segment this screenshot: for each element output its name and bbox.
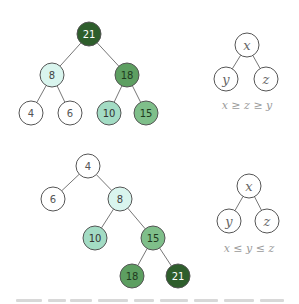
tree-node: z (254, 67, 278, 91)
node-label: z (262, 72, 270, 87)
tree-node: 18 (115, 63, 139, 87)
node-label: z (263, 214, 271, 229)
tree-node: y (217, 209, 241, 233)
tree-node: 8 (40, 63, 64, 87)
tree-node: y (214, 67, 238, 91)
node-label: y (224, 214, 233, 229)
heap-diagram: 21818461015 xyz x ≥ z ≥ y 46810151821 xy… (0, 0, 299, 304)
tree-edge (114, 86, 122, 102)
tree-edge (138, 249, 147, 266)
tree-node: 6 (58, 101, 82, 125)
tree-node: x (235, 33, 259, 57)
tree-edge (97, 43, 119, 66)
tree-node: z (255, 209, 279, 233)
node-label: 6 (50, 194, 56, 205)
node-label: 10 (103, 108, 116, 119)
tree-edge (160, 248, 172, 266)
tree-node: 4 (19, 101, 43, 125)
max-heap-template: xyz (214, 33, 278, 91)
min-heap-template: xyz (217, 174, 279, 233)
max-heap-caption: x ≥ z ≥ y (222, 99, 273, 112)
node-label: 8 (117, 194, 123, 205)
node-label: 15 (147, 233, 160, 244)
tree-node: 4 (76, 154, 100, 178)
node-label: y (221, 72, 230, 87)
tree-node: x (237, 174, 261, 198)
tree-node: 21 (77, 22, 101, 46)
node-label: 21 (83, 29, 96, 40)
tree-node: 6 (41, 187, 65, 211)
node-label: 6 (67, 108, 73, 119)
node-label: 15 (140, 108, 153, 119)
tree-edge (132, 86, 140, 103)
tree-node: 15 (134, 101, 158, 125)
tree-node: 10 (83, 226, 107, 250)
clipped-caption-line (0, 297, 299, 304)
tree-edge (57, 86, 65, 102)
tree-node: 18 (120, 264, 144, 288)
node-label: 4 (28, 108, 34, 119)
node-label: 10 (89, 233, 102, 244)
tree-edge (60, 43, 81, 66)
node-label: x (243, 38, 251, 53)
tree-edge (101, 209, 113, 228)
node-label: 18 (126, 271, 139, 282)
node-label: 8 (49, 70, 55, 81)
tree-node: 21 (166, 264, 190, 288)
tree-edge (254, 197, 261, 211)
node-label: 18 (121, 70, 134, 81)
node-label: 21 (172, 271, 185, 282)
tree-edge (62, 174, 80, 191)
node-label: x (245, 179, 253, 194)
min-heap-caption: x ≤ y ≤ z (224, 242, 275, 255)
min-heap-tree: 46810151821 (41, 154, 190, 288)
tree-edge (96, 175, 111, 191)
tree-edge (235, 196, 243, 210)
tree-edge (253, 55, 260, 68)
max-heap-tree: 21818461015 (19, 22, 158, 125)
node-label: 4 (85, 161, 91, 172)
tree-edge (37, 86, 46, 103)
tree-node: 10 (97, 101, 121, 125)
tree-node: 15 (141, 226, 165, 250)
tree-edge (128, 208, 145, 229)
tree-node: 8 (108, 187, 132, 211)
tree-edge (232, 55, 240, 69)
